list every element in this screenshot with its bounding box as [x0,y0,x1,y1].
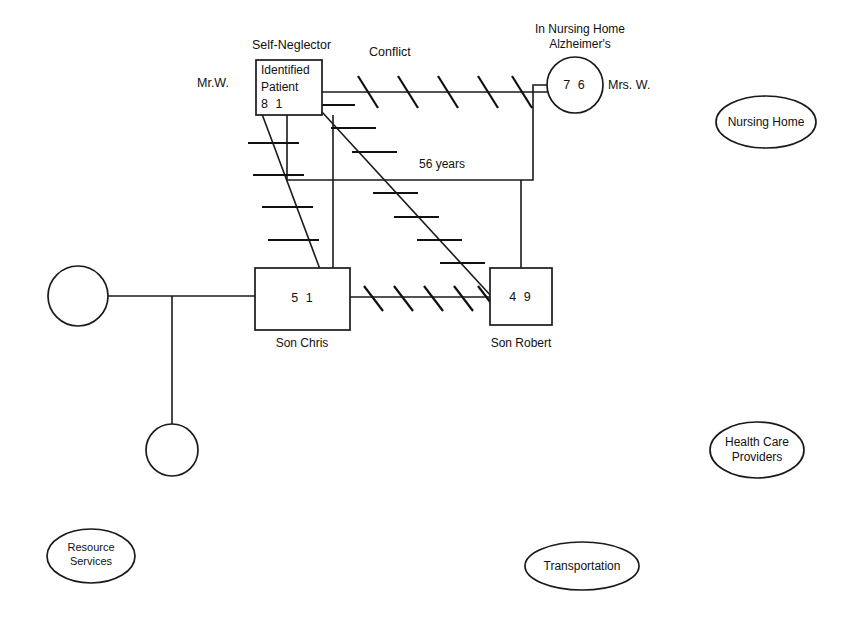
self-neglector-label: Self-Neglector [252,38,331,53]
genogram-canvas: Self-Neglector Mr.W. Identified Patient … [0,0,849,636]
conflict-label: Conflict [369,45,411,60]
son-chris-label: Son Chris [252,336,352,350]
wife-status-line1: In Nursing Home [505,22,655,36]
ecomap-label-transportation: Transportation [527,559,637,573]
conflict-line-chris-robert [350,286,497,311]
mr-w-label: Mr.W. [197,76,229,91]
identified-patient-age: 8 1 [261,97,284,112]
ecomap-label-nursing-home: Nursing Home [716,115,816,129]
marriage-duration-label: 56 years [419,157,465,171]
chris-child-circle[interactable] [146,424,198,476]
wife-status-line2: Alzheimer's [505,37,655,51]
son-robert-age: 4 9 [492,290,550,305]
wife-age: 7 6 [545,78,605,93]
chris-family-lines [108,296,255,424]
identified-patient-line2: Patient [261,80,298,94]
mrs-w-label: Mrs. W. [608,78,650,93]
chris-spouse-circle[interactable] [48,266,108,326]
ecomap-label-health-care-providers-line1: Health Care [707,435,807,449]
ecomap-label-resource-services-line2: Services [46,555,136,568]
ecomap-label-resource-services-line1: Resource [46,541,136,554]
conflict-line-ip-wife [322,76,547,108]
son-chris-age: 5 1 [273,291,333,306]
marriage-line-ip-wife [287,85,547,180]
ecomap-label-health-care-providers-line2: Providers [707,450,807,464]
identified-patient-line1: Identified [261,63,310,77]
son-robert-label: Son Robert [471,336,571,350]
